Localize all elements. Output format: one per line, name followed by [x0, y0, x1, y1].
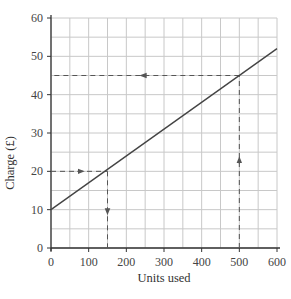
y-tick-label: 60	[31, 11, 43, 25]
x-tick-label: 400	[193, 255, 211, 269]
y-tick-label: 40	[31, 88, 43, 102]
charge-vs-units-chart: 01002003004005006000102030405060Units us…	[0, 0, 291, 299]
y-tick-label: 30	[31, 126, 43, 140]
y-tick-label: 20	[31, 164, 43, 178]
x-tick-label: 300	[155, 255, 173, 269]
x-tick-label: 0	[48, 255, 54, 269]
y-tick-label: 10	[31, 203, 43, 217]
x-axis-title: Units used	[137, 271, 191, 285]
y-axis-title: Charge (£)	[3, 136, 17, 190]
grid-lines	[51, 18, 277, 248]
y-tick-label: 50	[31, 49, 43, 63]
y-tick-label: 0	[37, 241, 43, 255]
x-tick-label: 100	[80, 255, 98, 269]
x-tick-label: 500	[230, 255, 248, 269]
x-tick-label: 200	[117, 255, 135, 269]
x-tick-label: 600	[268, 255, 286, 269]
